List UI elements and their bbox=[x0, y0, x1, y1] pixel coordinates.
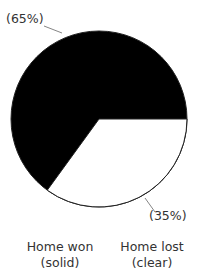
legend-item-home-won: Home won (solid) bbox=[20, 239, 100, 271]
leader-line-home-won bbox=[44, 26, 62, 33]
legend-item-home-lost: Home lost (clear) bbox=[112, 239, 192, 271]
slice-label-home-won: (65%) bbox=[6, 11, 44, 26]
pie-chart bbox=[0, 0, 201, 276]
slice-label-home-lost: (35%) bbox=[149, 208, 187, 223]
legend-label: Home won bbox=[20, 239, 100, 255]
legend-fill-desc: (solid) bbox=[20, 255, 100, 271]
legend-label: Home lost bbox=[112, 239, 192, 255]
legend-fill-desc: (clear) bbox=[112, 255, 192, 271]
pie-slices bbox=[11, 31, 187, 207]
